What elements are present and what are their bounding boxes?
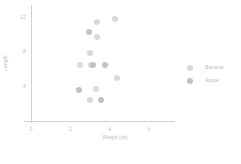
- data-point: [93, 86, 99, 92]
- x-tick-label: 6: [142, 126, 156, 132]
- data-point: [86, 29, 92, 35]
- legend-label: Apple: [205, 77, 219, 83]
- y-tick-label: 4: [12, 83, 26, 89]
- data-point: [114, 75, 120, 81]
- x-tick-label: 0: [24, 126, 38, 132]
- legend-label: Banana: [205, 64, 223, 70]
- legend-marker-icon: [187, 65, 193, 71]
- legend-item[interactable]: Apple: [185, 75, 241, 88]
- data-point: [112, 16, 118, 22]
- data-point: [98, 97, 104, 103]
- legend-marker-icon: [187, 78, 193, 84]
- x-tick-label: 2: [63, 126, 77, 132]
- data-point: [87, 97, 93, 103]
- data-point: [94, 34, 100, 40]
- x-axis-title: Weight (oz): [70, 134, 160, 140]
- data-point: [94, 19, 100, 25]
- y-axis-title: Length: [2, 48, 8, 78]
- legend-item[interactable]: Banana: [185, 62, 241, 75]
- x-tick-label: 4: [103, 126, 117, 132]
- y-axis-line: [31, 5, 32, 123]
- chart-legend: BananaApple: [185, 62, 241, 88]
- y-tick-label: 12: [12, 14, 26, 20]
- data-point: [102, 62, 108, 68]
- y-tick-label: 8: [12, 48, 26, 54]
- scatter-chart: 4812 0246 Length Weight (oz) BananaApple: [0, 0, 241, 164]
- data-point: [90, 62, 96, 68]
- x-axis-line: [24, 121, 175, 122]
- data-point: [76, 87, 82, 93]
- data-point: [77, 62, 83, 68]
- data-point: [87, 50, 93, 56]
